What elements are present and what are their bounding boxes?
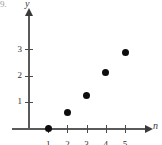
data-point [83, 92, 90, 99]
x-tick-label: 4 [104, 139, 109, 145]
y-tick-label: 2 [8, 71, 22, 80]
y-tick-mark [25, 49, 33, 50]
y-tick-mark [25, 102, 33, 103]
x-tick-mark [67, 125, 68, 133]
y-axis-label: y [25, 0, 29, 9]
y-axis-line [28, 14, 30, 129]
y-tick-label: 1 [8, 97, 22, 106]
y-tick-mark [25, 76, 33, 77]
x-tick-label-wrap: 2 [61, 133, 73, 145]
x-axis-label: n [153, 121, 158, 131]
problem-number-label: 9. [0, 0, 7, 9]
x-tick-label-wrap: 5 [119, 133, 131, 145]
data-point [122, 49, 129, 56]
x-axis-arrow-icon [145, 125, 153, 133]
x-tick-label: 1 [46, 139, 51, 145]
x-tick-label-wrap: 4 [100, 133, 112, 145]
x-tick-label-wrap: 3 [81, 133, 93, 145]
x-axis-line [12, 128, 147, 130]
scatter-plot-figure: 9. y n 123 12345 [0, 0, 162, 145]
x-tick-label: 3 [84, 139, 89, 145]
x-tick-mark [106, 125, 107, 133]
data-point [102, 69, 109, 76]
x-tick-label: 2 [65, 139, 70, 145]
y-tick-label: 3 [8, 45, 22, 54]
data-point [45, 125, 52, 132]
x-tick-label: 5 [123, 139, 128, 145]
x-tick-mark [87, 125, 88, 133]
x-tick-label-wrap: 1 [42, 133, 54, 145]
y-axis-arrow-icon [25, 8, 33, 16]
x-tick-mark [125, 125, 126, 133]
data-point [64, 109, 71, 116]
